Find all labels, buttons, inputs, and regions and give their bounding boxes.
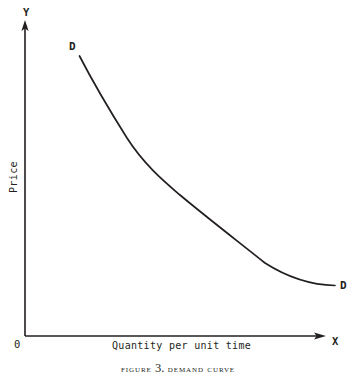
y-axis-letter: Y <box>23 7 29 18</box>
curve-label-upper: D <box>69 41 76 52</box>
plot-area <box>0 0 356 382</box>
caption-title: Demand Curve <box>168 363 235 374</box>
figure-caption: Figure 3. Demand Curve <box>0 362 356 375</box>
caption-number: 3. <box>155 361 164 375</box>
caption-label: Figure <box>121 363 152 374</box>
x-axis-title: Quantity per unit time <box>112 341 251 351</box>
origin-label: 0 <box>14 339 20 350</box>
curve-label-lower: D <box>340 280 347 291</box>
y-axis-title: Price <box>9 155 19 199</box>
x-axis-letter: X <box>332 336 338 347</box>
demand-curve-line <box>80 56 336 286</box>
figure-demand-curve: Y X 0 D D Price Quantity per unit time F… <box>0 0 356 382</box>
